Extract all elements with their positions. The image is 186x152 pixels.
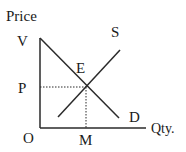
demand-intercept-label: V [17,33,28,49]
x-axis-label: Qty. [151,121,175,136]
supply-demand-diagram: Price V S E P D O M Qty. [0,0,186,152]
quantity-label: M [79,132,92,148]
supply-label: S [111,24,119,40]
origin-label: O [23,130,34,146]
supply-curve [58,50,120,117]
demand-label: D [129,109,140,125]
demand-curve [40,38,119,118]
equilibrium-label: E [76,60,85,76]
price-label: P [18,80,26,96]
y-axis-label: Price [6,8,37,24]
